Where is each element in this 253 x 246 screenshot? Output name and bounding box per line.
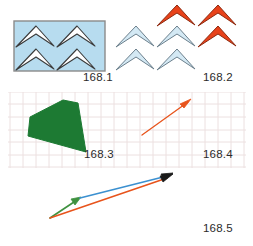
chevron-shape — [116, 49, 154, 70]
figure-label-168-4: 168.4 — [203, 148, 233, 160]
green-polygon — [28, 100, 86, 152]
blue-vector-shaft — [80, 176, 167, 198]
figure-168-1 — [14, 21, 105, 71]
figure-label-168-5: 168.5 — [203, 222, 233, 234]
chevron-shape — [198, 26, 236, 47]
figure-168-3 — [28, 100, 86, 152]
figure-label-168-2: 168.2 — [203, 71, 233, 83]
green-vector-shaft — [50, 200, 77, 218]
chevron-shape — [157, 49, 195, 70]
pale-blue-chevron-group — [116, 26, 195, 70]
orange-chevron-group — [157, 5, 236, 47]
figure-168-2 — [116, 5, 236, 70]
figure-label-168-1: 168.1 — [83, 71, 113, 83]
figure-plate: 168.1 168.2 168.3 168.4 168.5 — [0, 0, 253, 246]
figure-168-5 — [50, 173, 173, 218]
chevron-shape — [157, 26, 195, 47]
figure-label-168-3: 168.3 — [84, 148, 114, 160]
figure-plate-canvas — [0, 0, 253, 246]
chevron-shape — [116, 26, 154, 47]
orange-resultant-shaft — [50, 178, 167, 218]
chevron-shape — [157, 5, 195, 26]
chevron-shape — [198, 5, 236, 26]
